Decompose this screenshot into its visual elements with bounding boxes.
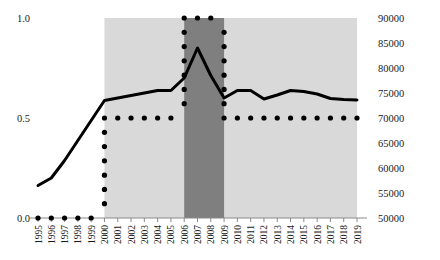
x-axis-tick-label: 2002 xyxy=(127,225,137,244)
dotted-marker xyxy=(221,101,226,106)
right-axis-tick-label: 60000 xyxy=(378,163,404,174)
dotted-marker xyxy=(128,115,133,120)
dotted-marker xyxy=(182,73,187,78)
right-axis-tick-label: 90000 xyxy=(378,13,404,24)
dotted-marker xyxy=(182,101,187,106)
dotted-marker xyxy=(102,144,107,149)
right-axis-tick-label: 80000 xyxy=(378,63,404,74)
dotted-marker xyxy=(182,87,187,92)
dotted-marker xyxy=(235,115,240,120)
dotted-marker xyxy=(221,44,226,49)
dotted-marker xyxy=(102,130,107,135)
dotted-marker xyxy=(102,173,107,178)
x-axis-tick-label: 2004 xyxy=(153,225,163,244)
x-axis-tick-label: 2014 xyxy=(286,225,296,244)
dotted-marker xyxy=(89,215,94,220)
x-axis-tick-label: 2011 xyxy=(246,225,256,244)
x-axis-tick-label: 2012 xyxy=(259,225,269,244)
dotted-marker xyxy=(115,115,120,120)
dotted-marker xyxy=(102,158,107,163)
x-axis-tick-label: 2005 xyxy=(166,225,176,244)
x-axis-tick-label: 1999 xyxy=(87,225,97,244)
x-axis-tick-label: 2000 xyxy=(100,225,110,244)
right-axis-tick-label: 70000 xyxy=(378,113,404,124)
dotted-marker xyxy=(328,115,333,120)
dotted-marker xyxy=(49,215,54,220)
x-axis-tick-label: 2008 xyxy=(206,225,216,244)
dotted-marker xyxy=(221,73,226,78)
dotted-marker xyxy=(102,201,107,206)
left-axis-tick-label: 0.5 xyxy=(17,113,30,124)
dotted-marker xyxy=(275,115,280,120)
x-axis-tick-label: 1996 xyxy=(47,225,57,244)
x-axis-tick-label: 2015 xyxy=(299,225,309,244)
x-axis-tick-label: 2016 xyxy=(313,225,323,244)
x-axis-tick-label: 2013 xyxy=(273,225,283,244)
dotted-marker xyxy=(354,115,359,120)
x-axis-tick-label: 2017 xyxy=(326,225,336,244)
dotted-marker xyxy=(142,115,147,120)
dotted-marker xyxy=(301,115,306,120)
right-axis-tick-label: 55000 xyxy=(378,188,404,199)
left-axis-tick-label: 1.0 xyxy=(17,13,30,24)
chart-container: 1995199619971998199920002001200220032004… xyxy=(0,0,440,260)
dotted-marker xyxy=(261,115,266,120)
line-chart: 1995199619971998199920002001200220032004… xyxy=(0,0,440,260)
x-axis-tick-label: 2007 xyxy=(193,225,203,244)
right-axis-tick-label: 50000 xyxy=(378,213,404,224)
dotted-marker xyxy=(221,87,226,92)
dotted-marker xyxy=(341,115,346,120)
dotted-marker xyxy=(62,215,67,220)
right-axis-tick-label: 85000 xyxy=(378,38,404,49)
right-axis-labels: 5000055000600006500070000750008000085000… xyxy=(378,13,404,224)
dotted-marker xyxy=(221,30,226,35)
x-axis-tick-label: 1998 xyxy=(73,225,83,244)
dotted-marker xyxy=(182,30,187,35)
dotted-marker xyxy=(221,115,226,120)
left-axis-tick-label: 0.0 xyxy=(17,213,30,224)
x-axis-tick-label: 2001 xyxy=(113,225,123,244)
dotted-marker xyxy=(315,115,320,120)
right-axis-tick-label: 75000 xyxy=(378,88,404,99)
dotted-marker xyxy=(102,115,107,120)
dotted-marker xyxy=(75,215,80,220)
dotted-marker xyxy=(102,187,107,192)
x-axis-tick-label: 2003 xyxy=(140,225,150,244)
dotted-marker xyxy=(182,44,187,49)
dotted-marker xyxy=(288,115,293,120)
dotted-marker xyxy=(195,15,200,20)
dotted-marker xyxy=(35,215,40,220)
dotted-marker xyxy=(168,115,173,120)
dotted-marker xyxy=(182,58,187,63)
x-axis-tick-label: 2006 xyxy=(180,225,190,244)
x-axis-tick-label: 2009 xyxy=(220,225,230,244)
x-axis-tick-label: 1995 xyxy=(34,225,44,244)
dotted-marker xyxy=(248,115,253,120)
dotted-marker xyxy=(221,58,226,63)
x-axis-tick-label: 2018 xyxy=(339,225,349,244)
dotted-marker xyxy=(155,115,160,120)
dark-shaded-band xyxy=(184,18,224,218)
dotted-marker xyxy=(182,15,187,20)
right-axis-tick-label: 65000 xyxy=(378,138,404,149)
x-axis-tick-label: 2019 xyxy=(353,225,363,244)
dotted-marker xyxy=(208,15,213,20)
x-axis-tick-label: 1997 xyxy=(60,225,70,244)
x-axis-tick-label: 2010 xyxy=(233,225,243,244)
